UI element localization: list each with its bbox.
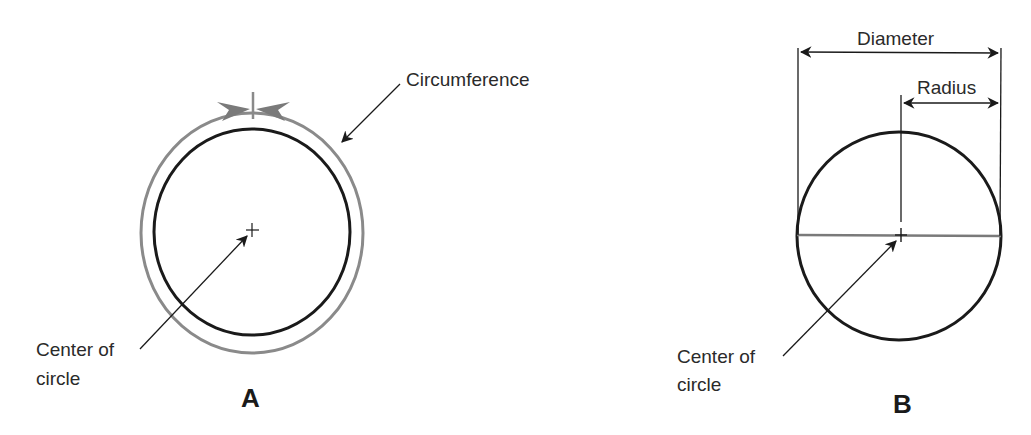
center-label-a-line2: circle — [36, 368, 80, 390]
panel-a-letter: A — [241, 383, 260, 414]
panel-b-letter: B — [893, 389, 912, 420]
center-label-b-line1: Center of — [677, 346, 755, 368]
radius-label: Radius — [917, 77, 976, 99]
panel-a — [140, 84, 400, 353]
center-label-b-line2: circle — [677, 374, 721, 396]
circumference-pointer-arrow — [342, 84, 400, 142]
diameter-dimension-arrow — [801, 52, 998, 53]
circle-parts-diagram — [0, 0, 1031, 435]
right-extension-line — [1000, 48, 1001, 236]
center-label-a-line1: Center of — [36, 339, 114, 361]
diameter-label: Diameter — [857, 28, 934, 50]
circumference-label: Circumference — [406, 69, 530, 91]
